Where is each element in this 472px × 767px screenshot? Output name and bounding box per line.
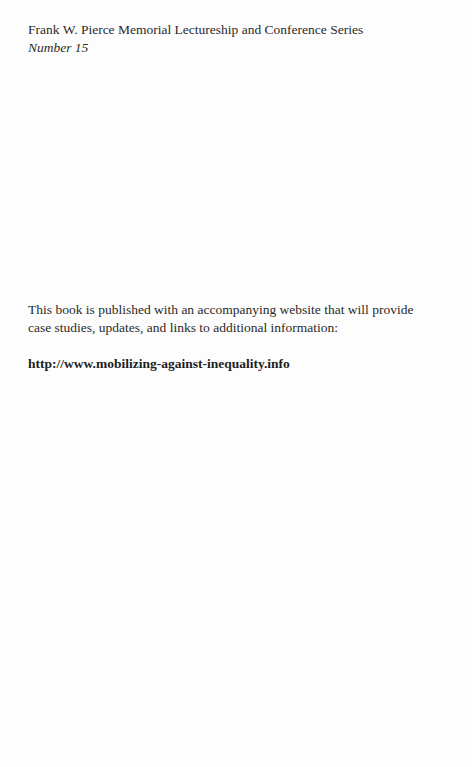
notice-line-2: case studies, updates, and links to addi… <box>28 319 448 337</box>
series-title: Frank W. Pierce Memorial Lectureship and… <box>28 21 363 39</box>
series-block: Frank W. Pierce Memorial Lectureship and… <box>28 21 363 57</box>
series-number: Number 15 <box>28 39 363 57</box>
website-url[interactable]: http://www.mobilizing-against-inequality… <box>28 355 290 373</box>
website-notice: This book is published with an accompany… <box>28 301 448 337</box>
notice-line-1: This book is published with an accompany… <box>28 301 448 319</box>
